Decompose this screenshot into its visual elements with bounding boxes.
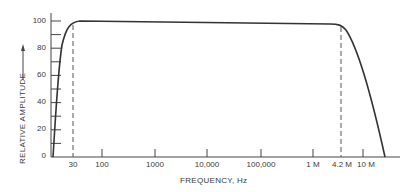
x-ticks [102,149,363,157]
y-ticks [51,21,61,143]
response-curve [53,21,385,157]
x-tick-label-30: 30 [69,160,78,169]
x-tick-label-10m: 10 M [357,160,375,169]
x-tick-label-1m: 1 M [306,160,319,169]
arrow-up-icon [21,44,25,51]
y-axis-title: RELATIVE AMPLITUDE [18,59,27,179]
x-axis-title: FREQUENCY, Hz [180,176,247,185]
x-tick-label-10000: 10,000 [195,160,219,169]
x-tick-label-100: 100 [95,160,108,169]
y-tick-label-60: 60 [28,70,46,79]
x-tick-label-4-2m: 4.2 M [332,160,352,169]
y-tick-label-40: 40 [28,97,46,106]
x-tick-label-1000: 1000 [146,160,164,169]
y-tick-label-20: 20 [28,124,46,133]
y-tick-label-0: 0 [28,151,46,160]
y-tick-label-80: 80 [28,43,46,52]
y-tick-label-100: 100 [28,16,46,25]
x-tick-label-100000: 100,000 [247,160,276,169]
